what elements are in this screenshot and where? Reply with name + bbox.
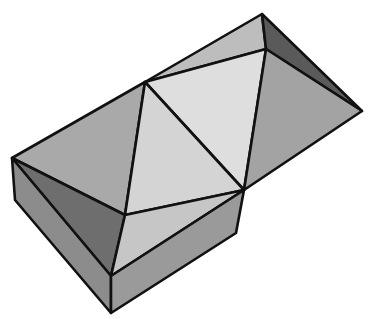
figure-canvas [0,0,377,319]
solid-figure [0,0,377,319]
